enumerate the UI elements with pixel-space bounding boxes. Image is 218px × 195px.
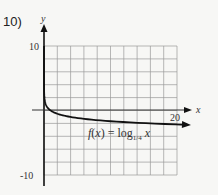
x-axis-arrow-icon	[184, 107, 192, 113]
y-tick-neg10: -10	[20, 170, 33, 181]
function-label: f(x) = log1/4 x	[88, 126, 151, 142]
axes	[32, 24, 192, 186]
x-axis-label: x	[195, 104, 201, 115]
y-tick-10: 10	[29, 41, 39, 52]
function-curve	[44, 46, 187, 125]
curve-arrow-icon	[182, 121, 191, 128]
graph: y x 10 -10 20 f(x) = log1/4 x	[0, 0, 218, 195]
y-axis-arrow-icon	[41, 24, 48, 32]
y-axis-label: y	[40, 13, 46, 24]
x-tick-20: 20	[170, 112, 180, 123]
